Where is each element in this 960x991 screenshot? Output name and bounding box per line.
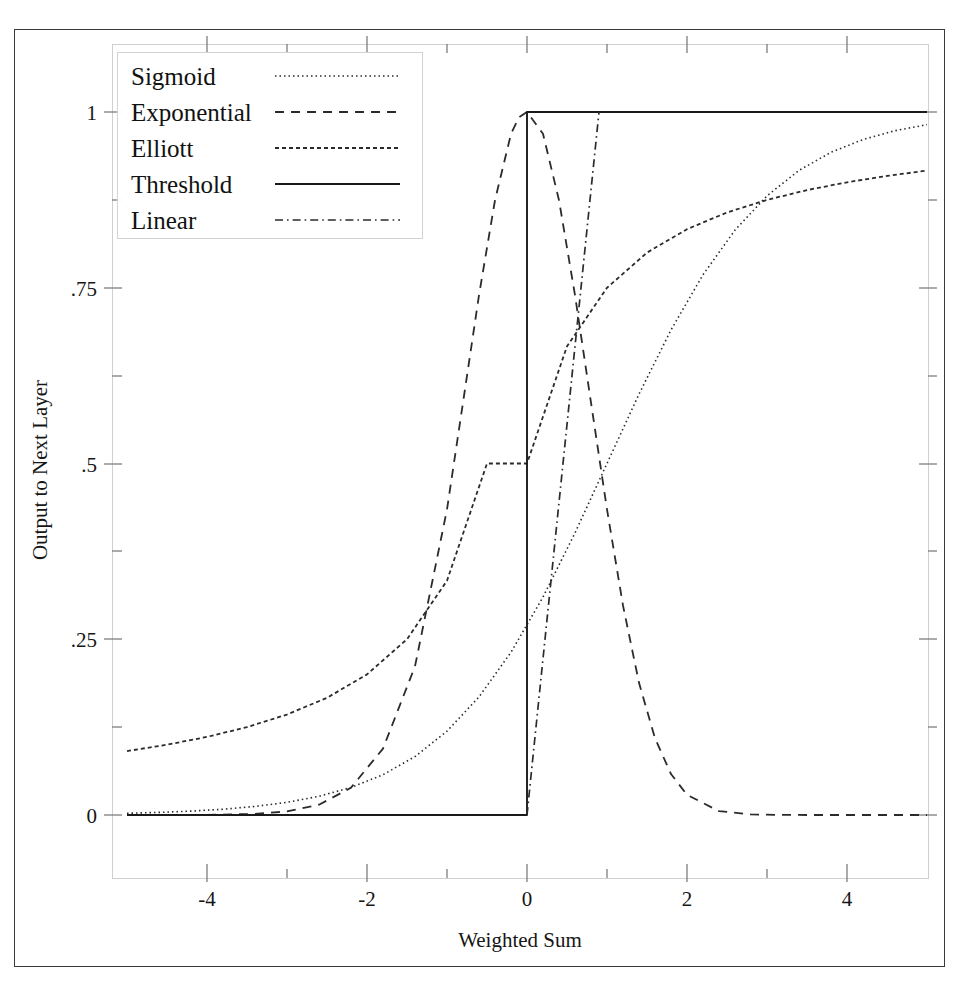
legend: Sigmoid Exponential Elliott Threshold Li… [118, 53, 423, 239]
legend-label: Threshold [131, 171, 233, 198]
activation-functions-chart: 1 .75 .5 .25 0 -4 -2 0 2 4 Weighted Sum … [0, 0, 960, 991]
legend-label: Exponential [131, 99, 252, 126]
y-tick-label: 0 [87, 804, 98, 828]
y-tick-label: .75 [71, 277, 97, 301]
x-tick-label: 4 [842, 887, 853, 911]
x-tick-label: 0 [522, 887, 533, 911]
legend-label: Sigmoid [131, 63, 216, 90]
x-tick-label: -2 [358, 887, 376, 911]
y-axis-title: Output to Next Layer [28, 380, 52, 560]
series-line-linear [527, 112, 599, 815]
legend-label: Elliott [131, 135, 194, 162]
figure-page: 1 .75 .5 .25 0 -4 -2 0 2 4 Weighted Sum … [0, 0, 960, 991]
y-tick-labels: 1 .75 .5 .25 0 [71, 101, 97, 828]
x-tick-label: 2 [682, 887, 693, 911]
x-tick-labels: -4 -2 0 2 4 [198, 887, 853, 911]
x-axis-ticks [207, 864, 847, 882]
legend-label: Linear [131, 207, 197, 234]
y-tick-label: 1 [87, 101, 98, 125]
y-tick-label: .5 [81, 453, 97, 477]
x-tick-label: -4 [198, 887, 216, 911]
x-axis-title: Weighted Sum [458, 928, 582, 952]
y-tick-label: .25 [71, 628, 97, 652]
